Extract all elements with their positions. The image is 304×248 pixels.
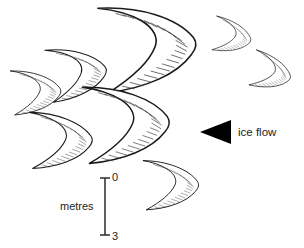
figure-root: ice flow metres 0 3 xyxy=(0,0,304,248)
crescent-8 xyxy=(143,159,199,210)
crescent-6 xyxy=(82,81,171,163)
crescent-1 xyxy=(98,0,200,93)
scale-bar-label: metres xyxy=(60,200,94,212)
ice-flow-label: ice flow xyxy=(238,126,277,138)
crescent-7 xyxy=(29,110,93,168)
crescent-3 xyxy=(11,68,63,115)
scale-bar xyxy=(100,178,110,235)
scale-bar-top-value: 0 xyxy=(112,171,118,183)
crescent-4 xyxy=(211,16,254,56)
bedform-group xyxy=(11,0,295,210)
ice-flow-arrow-icon xyxy=(200,120,231,144)
scale-bar-bottom-value: 3 xyxy=(112,230,118,242)
crescent-5 xyxy=(248,50,295,94)
diagram-canvas: ice flow metres 0 3 xyxy=(0,0,304,248)
